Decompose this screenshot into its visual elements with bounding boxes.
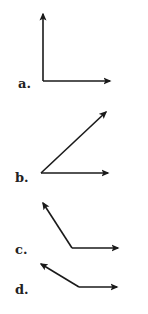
figure-label-a: a. [18, 76, 31, 91]
ray-arrow [41, 264, 79, 287]
figure-d: d. [15, 264, 117, 297]
ray-arrow [41, 112, 106, 173]
angles-diagram: a. b. c. d. [0, 0, 148, 314]
figure-label-b: b. [15, 170, 29, 185]
figure-b: b. [15, 112, 108, 185]
figure-c: c. [15, 203, 118, 257]
ray-arrow [43, 203, 72, 248]
figure-label-d: d. [15, 282, 29, 297]
figure-label-c: c. [15, 242, 27, 257]
figure-a: a. [18, 14, 110, 91]
